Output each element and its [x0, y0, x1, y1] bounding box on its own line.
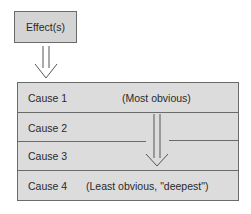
depth-arrow-icon: [145, 114, 169, 168]
cause-row-3: Cause 3: [18, 141, 238, 170]
effect-label: Effect(s): [26, 21, 65, 33]
arrow-down-icon: [34, 46, 58, 80]
cause-row-2: Cause 2: [18, 113, 238, 142]
cause-note: (Least obvious, "deepest"): [86, 180, 208, 192]
cause-label: Cause 4: [28, 180, 67, 192]
effect-box: Effect(s): [14, 11, 77, 43]
cause-label: Cause 2: [28, 122, 67, 134]
cause-row-4: Cause 4 (Least obvious, "deepest"): [18, 171, 238, 201]
cause-row-1: Cause 1 (Most obvious): [18, 83, 238, 112]
cause-label: Cause 3: [28, 150, 67, 162]
causes-table: Cause 1 (Most obvious) Cause 2 Cause 3 C…: [17, 82, 239, 201]
cause-label: Cause 1: [28, 92, 67, 104]
cause-note: (Most obvious): [122, 92, 191, 104]
